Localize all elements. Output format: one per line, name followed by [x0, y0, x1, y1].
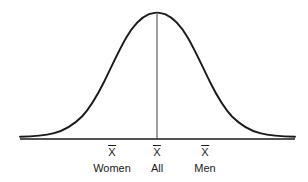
overline-men [201, 145, 209, 146]
x-bar-letter-men: X [201, 146, 208, 158]
marker-women: X Women [93, 143, 131, 174]
x-bar-letter-women: X [108, 146, 115, 158]
overline-women [108, 145, 116, 146]
marker-men: X Men [194, 143, 215, 174]
x-bar-letter-all: X [153, 146, 160, 158]
marker-label-men: Men [194, 163, 215, 174]
x-bar-symbol-all: X [153, 144, 160, 158]
marker-label-women: Women [93, 163, 131, 174]
x-bar-symbol-men: X [201, 144, 208, 158]
overline-all [153, 145, 161, 146]
marker-all: X All [151, 143, 163, 174]
bell-curve-figure: X Women X All X Men [0, 0, 308, 182]
marker-label-all: All [151, 163, 163, 174]
x-bar-symbol-women: X [108, 144, 115, 158]
